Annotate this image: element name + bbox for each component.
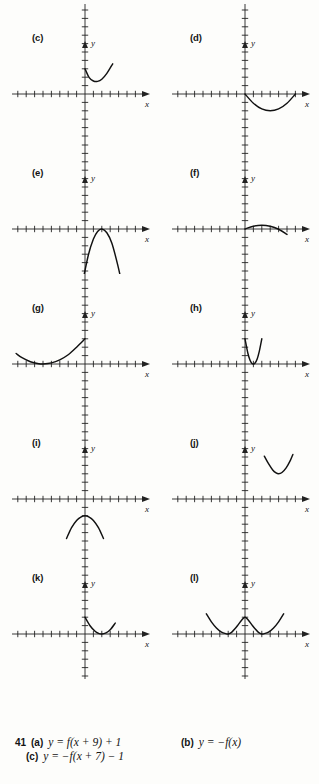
parabola-curve — [82, 229, 123, 274]
x-axis-label: x — [304, 504, 309, 514]
answer-item-b: (b) y = −f(x) — [181, 736, 241, 748]
x-axis-arrow — [302, 496, 310, 502]
answer-tag-c: (c) — [26, 751, 43, 762]
answer-number: 41 — [0, 737, 31, 748]
plot-panel-g: xy(g) — [0, 274, 159, 409]
y-axis-label: y — [250, 38, 255, 48]
x-axis-label: x — [144, 369, 149, 379]
parabola-curve — [264, 454, 293, 473]
x-axis-label: x — [144, 99, 149, 109]
x-axis-arrow — [302, 631, 310, 637]
panel-label-e: (e) — [32, 167, 43, 178]
plot-panel-k: xy(k) — [0, 544, 159, 679]
panel-label-j: (j) — [190, 437, 199, 448]
y-axis-label: y — [90, 578, 95, 588]
panel-label-c: (c) — [32, 32, 43, 43]
parabola-curve — [85, 64, 113, 82]
y-axis-arrow — [82, 311, 88, 318]
y-axis-arrow — [82, 176, 88, 183]
panel-label-l: (l) — [190, 572, 199, 583]
panel-label-k: (k) — [32, 572, 43, 583]
plot-panel-c: xy(c) — [0, 4, 159, 139]
answer-row-1: 41 (a) y = f(x + 9) + 1 (b) y = −f(x) — [0, 736, 319, 748]
y-axis-label: y — [90, 443, 95, 453]
y-axis-arrow — [82, 446, 88, 453]
x-axis-label: x — [144, 234, 149, 244]
x-axis-label: x — [304, 234, 309, 244]
answer-tag-b: (b) — [181, 737, 199, 748]
panel-label-d: (d) — [190, 32, 202, 43]
y-axis-label: y — [90, 173, 95, 183]
x-axis-arrow — [142, 226, 150, 232]
y-axis-label: y — [90, 308, 95, 318]
plot-panel-j: xy(j) — [160, 409, 319, 544]
answer-equation-c: y = −f(x + 7) − 1 — [43, 750, 124, 762]
parabola-curve — [245, 225, 287, 234]
y-axis-arrow — [82, 581, 88, 588]
plot-panel-f: xy(f) — [160, 139, 319, 274]
y-axis-label: y — [250, 308, 255, 318]
panel-label-g: (g) — [32, 302, 44, 313]
x-axis-arrow — [302, 361, 310, 367]
x-axis-arrow — [302, 226, 310, 232]
y-axis-label: y — [250, 443, 255, 453]
x-axis-label: x — [304, 639, 309, 649]
plot-panel-h: xy(h) — [160, 274, 319, 409]
y-axis-arrow — [82, 41, 88, 48]
y-axis-arrow — [242, 176, 248, 183]
answer-row-2: (c) y = −f(x + 7) − 1 — [0, 750, 319, 762]
panel-label-h: (h) — [190, 302, 202, 313]
answer-item-c: (c) y = −f(x + 7) − 1 — [26, 750, 124, 762]
answer-item-a: (a) y = f(x + 9) + 1 — [31, 736, 181, 748]
answer-tag-a: (a) — [31, 737, 48, 748]
y-axis-arrow — [242, 446, 248, 453]
y-axis-label: y — [250, 173, 255, 183]
y-axis-arrow — [242, 41, 248, 48]
x-axis-label: x — [144, 504, 149, 514]
figure-page: xy(c)xy(d)xy(e)xy(f)xy(g)xy(h)xy(i)xy(j)… — [0, 0, 319, 784]
plot-panel-e: xy(e) — [0, 139, 159, 274]
plot-panel-l: xy(l) — [160, 544, 319, 679]
x-axis-label: x — [304, 99, 309, 109]
x-axis-arrow — [142, 496, 150, 502]
panel-label-i: (i) — [32, 437, 41, 448]
parabola-curve — [245, 339, 262, 364]
y-axis-label: y — [250, 578, 255, 588]
x-axis-label: x — [304, 369, 309, 379]
parabola-curve — [85, 617, 115, 634]
x-axis-arrow — [142, 91, 150, 97]
y-axis-label: y — [90, 38, 95, 48]
x-axis-label: x — [144, 639, 149, 649]
y-axis-arrow — [242, 581, 248, 588]
answer-equation-b: y = −f(x) — [199, 736, 241, 748]
x-axis-arrow — [142, 361, 150, 367]
x-axis-arrow — [142, 631, 150, 637]
plot-panel-d: xy(d) — [160, 4, 319, 139]
parabola-curve — [16, 339, 85, 364]
answer-equation-a: y = f(x + 9) + 1 — [48, 736, 121, 748]
x-axis-arrow — [302, 91, 310, 97]
panel-label-f: (f) — [190, 167, 199, 178]
plot-panel-i: xy(i) — [0, 409, 159, 544]
y-axis-arrow — [242, 311, 248, 318]
answer-block: 41 (a) y = f(x + 9) + 1 (b) y = −f(x) (c… — [0, 736, 319, 762]
